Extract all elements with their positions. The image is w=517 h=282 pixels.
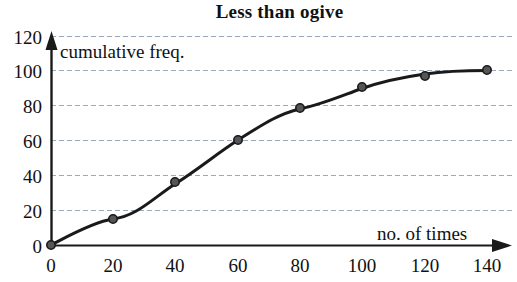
x-tick-label-60: 60	[229, 256, 248, 275]
x-tick-label-40: 40	[166, 256, 185, 275]
x-tick-label-80: 80	[291, 256, 310, 275]
y-tick-label-0: 0	[0, 237, 42, 256]
x-tick-label-0: 0	[46, 256, 56, 275]
y-tick-label-120: 120	[0, 28, 42, 47]
data-point-140-100	[483, 66, 491, 74]
data-point-120-96	[421, 72, 429, 80]
chart-figure: Less than ogive	[0, 0, 517, 282]
data-point-100-90	[358, 83, 366, 91]
x-tick-label-100: 100	[348, 256, 377, 275]
y-tick-label-60: 60	[0, 132, 42, 151]
gridlines	[51, 37, 513, 211]
y-tick-label-100: 100	[0, 62, 42, 81]
data-point-0-0	[47, 241, 55, 249]
x-axis-label: no. of times	[377, 224, 467, 243]
data-point-60-60	[234, 136, 242, 144]
data-point-40-36	[171, 178, 179, 186]
data-point-80-78	[296, 104, 304, 112]
y-axis-label: cumulative freq.	[60, 42, 185, 61]
y-tick-label-20: 20	[0, 202, 42, 221]
data-point-markers	[47, 66, 491, 249]
x-tick-label-20: 20	[104, 256, 123, 275]
data-point-20-15	[109, 215, 117, 223]
y-tick-label-40: 40	[0, 167, 42, 186]
y-axis-arrow-icon	[46, 31, 58, 50]
x-tick-label-120: 120	[411, 256, 440, 275]
x-tick-label-140: 140	[473, 256, 502, 275]
y-tick-label-80: 80	[0, 97, 42, 116]
x-axis-arrow-icon	[492, 239, 512, 252]
y-axis	[46, 31, 58, 245]
